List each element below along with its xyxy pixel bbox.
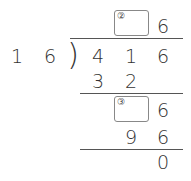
- blank-label: ②: [117, 12, 125, 21]
- product2-ones: 6: [157, 128, 169, 147]
- quotient-ones-digit: 6: [157, 17, 169, 36]
- division-bracket: ): [67, 40, 79, 70]
- division-bar: [70, 38, 183, 39]
- product1-tens: 3: [92, 72, 104, 91]
- dividend-hundreds: 4: [92, 47, 104, 66]
- product2-tens: 9: [125, 128, 137, 147]
- subtraction-line-1: [80, 93, 183, 94]
- step2-blank[interactable]: ③: [114, 96, 149, 122]
- remainder: 0: [157, 153, 169, 172]
- product1-ones: 2: [125, 72, 137, 91]
- step2-ones-digit: 6: [157, 101, 169, 120]
- divisor-tens: 1: [11, 47, 23, 66]
- divisor-ones: 6: [44, 47, 56, 66]
- blank-label: ③: [117, 98, 125, 107]
- dividend-ones: 6: [157, 47, 169, 66]
- quotient-tens-blank[interactable]: ②: [114, 10, 149, 36]
- dividend-tens: 1: [125, 47, 137, 66]
